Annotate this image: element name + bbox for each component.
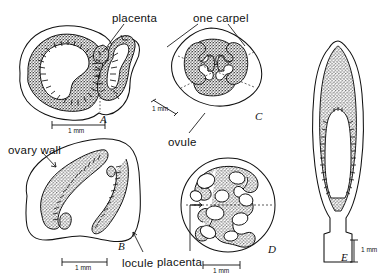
panel-e-drawing xyxy=(313,41,364,262)
label-locule: locule xyxy=(122,257,153,269)
scale-label-e: 1 mm xyxy=(361,246,377,253)
label-ovary-wall: ovary wall xyxy=(8,144,61,156)
panel-a-drawing xyxy=(20,26,140,120)
panel-letter-b: B xyxy=(118,240,125,252)
botanical-figure: placenta one carpel ovary wall ovule loc… xyxy=(0,0,385,278)
scale-label-a: 1 mm xyxy=(68,127,84,134)
scale-bar-e xyxy=(350,240,358,262)
scale-label-d: 1 mm xyxy=(213,267,229,274)
label-ovule: ovule xyxy=(168,136,197,148)
scale-label-c: 1 mm xyxy=(152,105,168,112)
panel-c-drawing xyxy=(172,28,262,106)
leader-ovule xyxy=(189,113,205,133)
panel-letter-a: A xyxy=(100,113,107,125)
panel-b-right-placenta xyxy=(92,159,128,234)
label-one-carpel: one carpel xyxy=(193,12,249,24)
panel-letter-c: C xyxy=(255,110,262,122)
label-placenta-bottom: placenta xyxy=(157,256,202,268)
panel-letter-d: D xyxy=(268,243,276,255)
label-placenta-top: placenta xyxy=(112,12,157,24)
panel-e-locule xyxy=(325,109,351,198)
panel-letter-e: E xyxy=(341,251,348,263)
scale-label-b: 1 mm xyxy=(75,264,91,271)
leader-locule xyxy=(133,232,143,252)
